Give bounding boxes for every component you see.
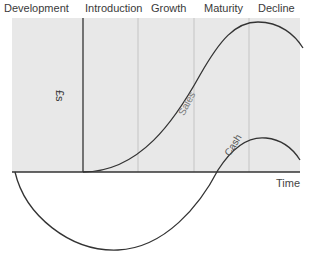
stage-label-maturity: Maturity [204, 2, 243, 14]
diagram-canvas [0, 0, 310, 259]
x-axis-label: Time [276, 177, 300, 189]
stage-label-growth: Growth [151, 2, 186, 14]
y-axis-label: £s [54, 90, 66, 102]
stage-label-development: Development [4, 2, 69, 14]
stage-label-decline: Decline [258, 2, 295, 14]
product-life-cycle-diagram: Development Introduction Growth Maturity… [0, 0, 310, 259]
stage-label-introduction: Introduction [85, 2, 142, 14]
